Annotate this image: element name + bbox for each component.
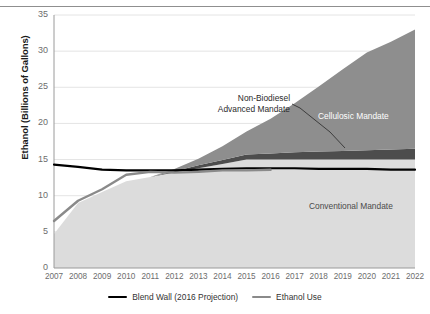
x-axis-tick-label: 2014: [209, 272, 235, 281]
x-axis-tick-label: 2010: [113, 272, 139, 281]
annotation-conventional-mandate: Conventional Mandate: [309, 201, 419, 212]
chart-legend: Blend Wall (2016 Projection) Ethanol Use: [0, 292, 430, 302]
legend-item-ethanol-use: Ethanol Use: [252, 292, 322, 302]
y-axis-tick-label: 10: [26, 190, 48, 200]
x-axis-tick-label: 2022: [402, 272, 428, 281]
x-axis-tick-label: 2021: [378, 272, 404, 281]
legend-swatch-blend-wall: [108, 296, 127, 299]
y-axis-tick-label: 0: [26, 262, 48, 272]
annotation-non-biodiesel-advanced-mandate: Non-BiodieselAdvanced Mandate: [186, 93, 290, 114]
y-axis-tick-label: 30: [26, 45, 48, 55]
y-axis-tick-label: 20: [26, 117, 48, 127]
ethanol-mandate-area-chart: Ethanol (Billions of Gallons) Non-Biodie…: [0, 0, 430, 314]
x-axis-tick-label: 2011: [137, 272, 163, 281]
x-axis-tick-label: 2007: [41, 272, 67, 281]
y-axis-tick-label: 35: [26, 9, 48, 19]
legend-swatch-ethanol-use: [252, 296, 271, 299]
chart-plot-area: [0, 0, 430, 314]
x-axis-tick-label: 2019: [330, 272, 356, 281]
annotation-line-1: Non-Biodiesel: [238, 93, 290, 103]
x-axis-tick-label: 2009: [89, 272, 115, 281]
x-axis-tick-label: 2013: [185, 272, 211, 281]
x-axis-tick-label: 2018: [306, 272, 332, 281]
x-axis-tick-label: 2015: [234, 272, 260, 281]
x-axis-tick-label: 2012: [161, 272, 187, 281]
legend-label-ethanol-use: Ethanol Use: [276, 292, 322, 302]
legend-label-blend-wall: Blend Wall (2016 Projection): [132, 292, 238, 302]
annotation-cellulosic-mandate: Cellulosic Mandate: [318, 111, 414, 122]
x-axis-tick-label: 2017: [282, 272, 308, 281]
y-axis-tick-label: 15: [26, 154, 48, 164]
x-axis-tick-label: 2016: [258, 272, 284, 281]
y-axis-tick-label: 25: [26, 81, 48, 91]
annotation-line-2: Advanced Mandate: [218, 104, 290, 114]
y-axis-tick-label: 5: [26, 226, 48, 236]
x-axis-tick-label: 2020: [354, 272, 380, 281]
legend-item-blend-wall: Blend Wall (2016 Projection): [108, 292, 238, 302]
x-axis-tick-label: 2008: [65, 272, 91, 281]
